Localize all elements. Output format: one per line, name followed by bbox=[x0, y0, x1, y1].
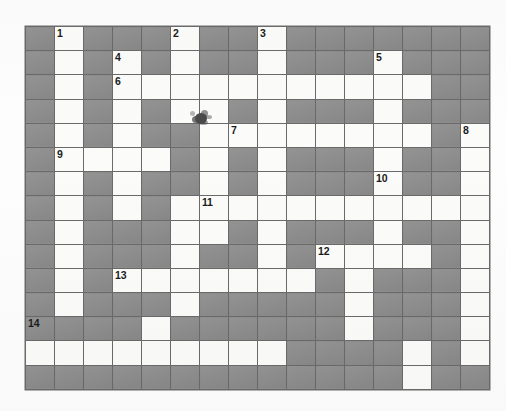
crossword-cell-open[interactable] bbox=[200, 341, 229, 365]
crossword-cell-open[interactable] bbox=[84, 341, 113, 365]
crossword-cell-open[interactable] bbox=[171, 268, 200, 292]
crossword-cell-open[interactable] bbox=[287, 196, 316, 220]
crossword-cell-open[interactable] bbox=[316, 123, 345, 147]
crossword-cell-open[interactable] bbox=[55, 196, 84, 220]
crossword-cell-open[interactable] bbox=[258, 75, 287, 99]
crossword-cell-open[interactable] bbox=[461, 268, 490, 292]
crossword-cell-open[interactable] bbox=[113, 341, 142, 365]
crossword-cell-open[interactable] bbox=[142, 147, 171, 171]
crossword-cell-open[interactable]: 6 bbox=[113, 75, 142, 99]
crossword-cell-open[interactable] bbox=[55, 341, 84, 365]
crossword-cell-open[interactable] bbox=[171, 220, 200, 244]
crossword-cell-open[interactable] bbox=[345, 244, 374, 268]
crossword-cell-open[interactable] bbox=[113, 147, 142, 171]
crossword-cell-open[interactable]: 5 bbox=[374, 51, 403, 75]
crossword-cell-open[interactable]: 8 bbox=[461, 123, 490, 147]
crossword-cell-open[interactable] bbox=[142, 268, 171, 292]
crossword-cell-open[interactable] bbox=[258, 268, 287, 292]
crossword-cell-open[interactable] bbox=[200, 172, 229, 196]
crossword-cell-open[interactable] bbox=[55, 75, 84, 99]
crossword-cell-open[interactable] bbox=[171, 99, 200, 123]
crossword-cell-open[interactable] bbox=[374, 75, 403, 99]
crossword-cell-open[interactable] bbox=[200, 220, 229, 244]
crossword-cell-open[interactable] bbox=[113, 123, 142, 147]
crossword-cell-open[interactable] bbox=[374, 99, 403, 123]
crossword-cell-open[interactable] bbox=[403, 244, 432, 268]
crossword-cell-open[interactable] bbox=[113, 99, 142, 123]
crossword-cell-open[interactable] bbox=[345, 317, 374, 341]
crossword-cell-open[interactable] bbox=[229, 196, 258, 220]
crossword-cell-open[interactable] bbox=[345, 293, 374, 317]
crossword-cell-open[interactable] bbox=[461, 196, 490, 220]
crossword-cell-open[interactable] bbox=[461, 172, 490, 196]
crossword-cell-open[interactable] bbox=[258, 220, 287, 244]
crossword-cell-open[interactable] bbox=[200, 123, 229, 147]
crossword-cell-open[interactable] bbox=[142, 75, 171, 99]
crossword-cell-open[interactable]: 7 bbox=[229, 123, 258, 147]
crossword-cell-open[interactable] bbox=[171, 341, 200, 365]
crossword-cell-open[interactable] bbox=[200, 75, 229, 99]
crossword-cell-open[interactable] bbox=[26, 341, 55, 365]
crossword-cell-open[interactable] bbox=[258, 147, 287, 171]
crossword-cell-open[interactable] bbox=[287, 123, 316, 147]
crossword-cell-open[interactable] bbox=[113, 172, 142, 196]
crossword-cell-open[interactable] bbox=[142, 317, 171, 341]
crossword-cell-open[interactable]: 2 bbox=[171, 27, 200, 51]
crossword-cell-open[interactable] bbox=[55, 268, 84, 292]
crossword-cell-open[interactable] bbox=[403, 341, 432, 365]
crossword-cell-open[interactable] bbox=[316, 75, 345, 99]
crossword-cell-open[interactable] bbox=[200, 147, 229, 171]
crossword-cell-open[interactable] bbox=[171, 196, 200, 220]
crossword-cell-open[interactable] bbox=[287, 75, 316, 99]
crossword-cell-open[interactable]: 3 bbox=[258, 27, 287, 51]
crossword-cell-open[interactable] bbox=[171, 244, 200, 268]
crossword-grid[interactable]: 1234567891011121314 bbox=[25, 26, 490, 390]
crossword-cell-open[interactable] bbox=[345, 196, 374, 220]
crossword-cell-open[interactable]: 1 bbox=[55, 27, 84, 51]
crossword-cell-open[interactable] bbox=[171, 293, 200, 317]
crossword-cell-open[interactable] bbox=[258, 51, 287, 75]
crossword-cell-open[interactable] bbox=[461, 341, 490, 365]
crossword-cell-open[interactable] bbox=[461, 293, 490, 317]
crossword-cell-open[interactable] bbox=[374, 123, 403, 147]
crossword-cell-open[interactable] bbox=[171, 51, 200, 75]
crossword-cell-open[interactable] bbox=[258, 196, 287, 220]
crossword-cell-open[interactable] bbox=[229, 75, 258, 99]
crossword-cell-open[interactable] bbox=[258, 244, 287, 268]
crossword-cell-open[interactable]: 11 bbox=[200, 196, 229, 220]
crossword-cell-open[interactable] bbox=[258, 123, 287, 147]
crossword-cell-open[interactable] bbox=[142, 341, 171, 365]
crossword-cell-open[interactable] bbox=[55, 99, 84, 123]
crossword-cell-open[interactable] bbox=[200, 99, 229, 123]
crossword-cell-open[interactable] bbox=[374, 196, 403, 220]
crossword-cell-open[interactable] bbox=[403, 123, 432, 147]
crossword-cell-open[interactable] bbox=[55, 123, 84, 147]
crossword-cell-open[interactable] bbox=[403, 365, 432, 389]
crossword-cell-open[interactable] bbox=[258, 99, 287, 123]
crossword-cell-open[interactable] bbox=[84, 147, 113, 171]
crossword-cell-open[interactable] bbox=[461, 220, 490, 244]
crossword-cell-open[interactable] bbox=[55, 220, 84, 244]
crossword-cell-open[interactable] bbox=[374, 220, 403, 244]
crossword-cell-open[interactable] bbox=[374, 244, 403, 268]
crossword-cell-open[interactable] bbox=[113, 196, 142, 220]
crossword-cell-open[interactable] bbox=[287, 268, 316, 292]
crossword-cell-open[interactable] bbox=[461, 244, 490, 268]
crossword-cell-open[interactable] bbox=[461, 317, 490, 341]
crossword-cell-open[interactable] bbox=[55, 293, 84, 317]
crossword-cell-open[interactable] bbox=[345, 268, 374, 292]
crossword-cell-open[interactable] bbox=[316, 196, 345, 220]
crossword-cell-open[interactable]: 10 bbox=[374, 172, 403, 196]
crossword-cell-open[interactable] bbox=[200, 268, 229, 292]
crossword-cell-open[interactable] bbox=[461, 147, 490, 171]
crossword-cell-open[interactable] bbox=[229, 268, 258, 292]
crossword-cell-open[interactable] bbox=[229, 341, 258, 365]
crossword-cell-open[interactable]: 9 bbox=[55, 147, 84, 171]
crossword-cell-open[interactable] bbox=[258, 341, 287, 365]
crossword-cell-open[interactable]: 4 bbox=[113, 51, 142, 75]
crossword-cell-open[interactable] bbox=[345, 123, 374, 147]
crossword-cell-open[interactable] bbox=[403, 75, 432, 99]
crossword-cell-open[interactable]: 12 bbox=[316, 244, 345, 268]
crossword-cell-open[interactable] bbox=[55, 172, 84, 196]
crossword-cell-open[interactable] bbox=[403, 196, 432, 220]
